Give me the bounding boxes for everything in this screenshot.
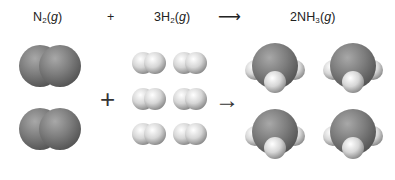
h2-molecule [132,52,166,74]
nh3-molecule [245,109,305,159]
h2-molecule [173,88,207,110]
h2-molecule [132,88,166,110]
nh3-molecule [323,43,383,93]
nh3-molecule [323,109,383,159]
h2-molecule [173,123,207,145]
n2-molecule [19,108,81,150]
h2-molecule [132,123,166,145]
n2-molecule [19,45,81,87]
molecule-diagram [0,0,395,180]
h2-molecule [173,52,207,74]
nh3-molecule [245,43,305,93]
